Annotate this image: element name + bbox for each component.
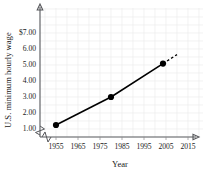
y-tick-label: 5.00 <box>23 60 36 69</box>
grid-horizontal <box>40 9 203 129</box>
x-tick-label: 1965 <box>70 142 85 151</box>
axis-break-marks <box>36 126 52 142</box>
x-axis-title: Year <box>112 159 128 169</box>
x-tick-labels: 1955 1965 1975 1985 1995 2005 2015 <box>48 142 195 151</box>
y-tick-labels: $7.00 6.00 5.00 4.00 3.00 2.00 1.00 <box>19 28 36 133</box>
x-tick-label: 1985 <box>114 142 129 151</box>
data-point <box>160 61 166 67</box>
x-tick-label: 1955 <box>48 142 63 151</box>
y-axis-title: U.S. minimum hourly wage <box>3 32 13 128</box>
y-tick-label: 3.00 <box>23 92 36 101</box>
data-point <box>108 94 114 100</box>
x-tick-label: 2005 <box>158 142 173 151</box>
x-tick-label: 1995 <box>136 142 151 151</box>
y-tick-label: $7.00 <box>19 28 36 37</box>
x-tick-label: 1975 <box>92 142 107 151</box>
chart-canvas: U.S. minimum hourly wage $7.00 6.00 5.00… <box>0 0 203 173</box>
y-tick-label: 1.00 <box>23 124 36 133</box>
y-tick-label: 4.00 <box>23 76 36 85</box>
y-tick-label: 2.00 <box>23 108 36 117</box>
data-point <box>53 122 59 128</box>
grid-vertical <box>45 8 199 137</box>
y-tick-label: 6.00 <box>23 44 36 53</box>
minimum-wage-line-chart: U.S. minimum hourly wage $7.00 6.00 5.00… <box>0 0 203 173</box>
x-tick-label: 2015 <box>180 142 195 151</box>
axis-lines <box>37 4 199 140</box>
